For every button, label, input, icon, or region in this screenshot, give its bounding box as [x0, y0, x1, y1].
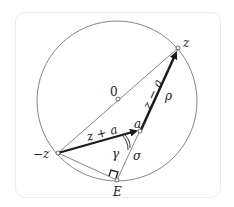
label-gamma: γ	[112, 147, 120, 161]
label-z-minus-a: z − a	[140, 77, 166, 112]
point-E	[115, 178, 119, 182]
label-rho: ρ	[164, 89, 172, 103]
label-neg-z: −z	[33, 147, 50, 161]
point-neg-z	[56, 151, 60, 155]
diagram-canvas: z −z 0 a E z + a z − a ρ σ γ	[0, 0, 234, 207]
label-z: z	[182, 36, 190, 50]
label-E: E	[112, 185, 122, 199]
label-origin: 0	[110, 85, 118, 99]
chord-negz-E	[58, 153, 117, 180]
geometry-figure: z −z 0 a E z + a z − a ρ σ γ	[0, 0, 234, 207]
point-z	[176, 46, 180, 50]
label-sigma: σ	[133, 149, 142, 163]
label-a: a	[134, 117, 141, 131]
